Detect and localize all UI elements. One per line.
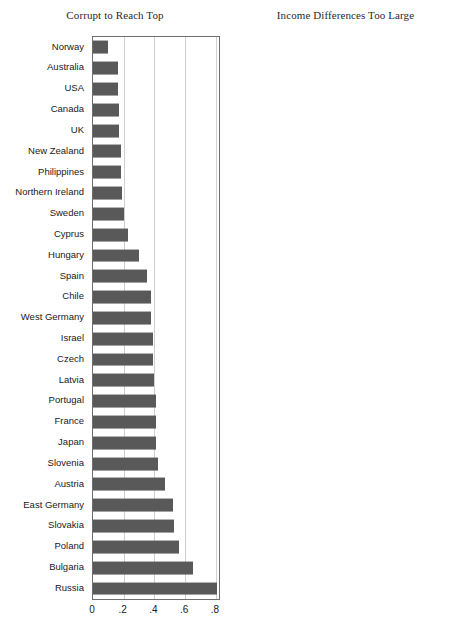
bar-row [93, 432, 219, 453]
bar-row [93, 204, 219, 225]
bar-row [93, 120, 219, 141]
bar [93, 332, 153, 345]
bar-row [93, 537, 219, 558]
y-axis-category-labels-left: NorwayAustraliaUSACanadaUKNew ZealandPhi… [0, 36, 88, 600]
bar-row [93, 99, 219, 120]
y-axis-label: Russia [0, 577, 88, 598]
y-axis-label: Slovenia [0, 452, 88, 473]
bar-row [93, 328, 219, 349]
chart-title-right: Income Differences Too Large [230, 9, 461, 21]
y-axis-label: Northern Ireland [0, 182, 88, 203]
bar [93, 436, 156, 449]
y-axis-label: Australia [0, 57, 88, 78]
x-axis-tick-label: 0 [89, 604, 95, 615]
bar [93, 582, 217, 595]
bar [93, 395, 156, 408]
y-axis-label: Poland [0, 536, 88, 557]
y-axis-label: Chile [0, 286, 88, 307]
bar [93, 353, 153, 366]
bar [93, 457, 158, 470]
y-axis-label: East Germany [0, 494, 88, 515]
y-axis-label: Philippines [0, 161, 88, 182]
x-axis-tick-label: .6 [180, 604, 188, 615]
bar [93, 166, 121, 179]
y-axis-label: Spain [0, 265, 88, 286]
x-axis-tick-label: .8 [211, 604, 219, 615]
bar-row [93, 79, 219, 100]
bar [93, 187, 122, 200]
bar [93, 478, 165, 491]
bar [93, 312, 151, 325]
y-axis-label: Portugal [0, 390, 88, 411]
chart-panel-corrupt-to-reach-top: Corrupt to Reach Top NorwayAustraliaUSAC… [0, 0, 230, 629]
chart-panel-income-differences-too-large: Income Differences Too Large Philippines… [230, 0, 461, 629]
bar [93, 540, 179, 553]
bar [93, 83, 118, 96]
bar-row [93, 287, 219, 308]
bar-row [93, 453, 219, 474]
bar [93, 499, 173, 512]
bar [93, 124, 119, 137]
y-axis-label: Czech [0, 348, 88, 369]
bar-row [93, 516, 219, 537]
chart-title-left: Corrupt to Reach Top [0, 9, 230, 21]
bar-series-left [93, 37, 219, 599]
y-axis-label: Norway [0, 36, 88, 57]
bar [93, 291, 151, 304]
plot-area-left [92, 36, 220, 600]
bar [93, 520, 174, 533]
x-axis-tick-label: .2 [119, 604, 127, 615]
bar-row [93, 308, 219, 329]
bar [93, 41, 108, 54]
y-axis-label: West Germany [0, 307, 88, 328]
bar-row [93, 495, 219, 516]
bar-row [93, 391, 219, 412]
bar [93, 228, 128, 241]
x-axis-tick-label: .4 [149, 604, 157, 615]
figure-container: Corrupt to Reach Top NorwayAustraliaUSAC… [0, 0, 461, 629]
y-axis-label: UK [0, 119, 88, 140]
bar-row [93, 370, 219, 391]
bar [93, 374, 154, 387]
y-axis-label: Canada [0, 98, 88, 119]
y-axis-label: Hungary [0, 244, 88, 265]
bar [93, 207, 124, 220]
y-axis-label: Cyprus [0, 223, 88, 244]
bar [93, 62, 118, 75]
y-axis-label: USA [0, 78, 88, 99]
bar-row [93, 474, 219, 495]
bar-row [93, 58, 219, 79]
bar [93, 145, 121, 158]
bar [93, 249, 139, 262]
bar-row [93, 412, 219, 433]
y-axis-label: Israel [0, 327, 88, 348]
bar-row [93, 266, 219, 287]
bar-row [93, 141, 219, 162]
bar-row [93, 37, 219, 58]
y-axis-label: Sweden [0, 203, 88, 224]
bar-row [93, 245, 219, 266]
y-axis-label: Slovakia [0, 515, 88, 536]
bar [93, 103, 119, 116]
bar-row [93, 183, 219, 204]
bar-row [93, 162, 219, 183]
bar-row [93, 224, 219, 245]
y-axis-label: Bulgaria [0, 556, 88, 577]
y-axis-label: France [0, 411, 88, 432]
bar-row [93, 349, 219, 370]
bar [93, 416, 156, 429]
bar [93, 270, 147, 283]
bar-row [93, 557, 219, 578]
y-axis-label: Latvia [0, 369, 88, 390]
x-axis-tick-labels-left: 0.2.4.6.8 [92, 602, 220, 620]
y-axis-label: New Zealand [0, 140, 88, 161]
y-axis-label: Austria [0, 473, 88, 494]
bar-row [93, 578, 219, 599]
bar [93, 561, 193, 574]
y-axis-label: Japan [0, 431, 88, 452]
